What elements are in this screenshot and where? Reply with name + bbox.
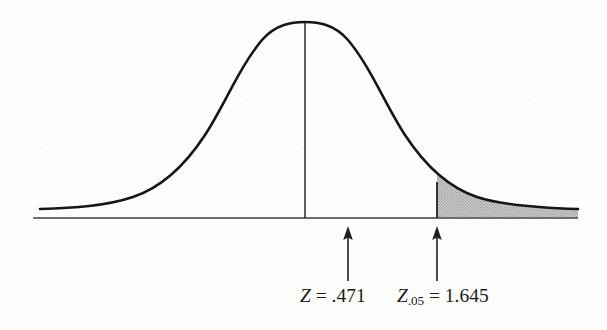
normal-distribution-figure: Z = .471 Z.05 = 1.645 [0, 0, 607, 330]
normal-curve [40, 22, 578, 209]
observed-value-arrow-icon [343, 226, 353, 281]
critical-value-arrow-icon [432, 226, 442, 281]
distribution-plot [0, 0, 607, 330]
